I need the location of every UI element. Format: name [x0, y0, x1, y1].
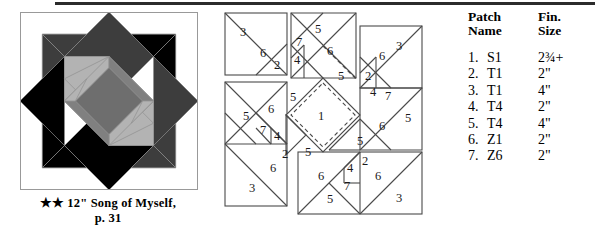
patch-fin-size: 2¾+ [538, 50, 594, 66]
column-header-fin-size: Fin. Size [538, 10, 594, 39]
patch-label: 6 [379, 119, 385, 133]
table-row: 4. T4 2" [468, 99, 594, 115]
patch-label: 2 [274, 58, 280, 72]
row-index: 5. [468, 116, 487, 132]
piecing-diagram-panel: 3 6 2 5 7 4 6 5 3 6 2 4 7 5 6 5 1 5 6 5 [208, 0, 440, 236]
quilt-block-illustration [20, 12, 198, 190]
patch-fin-size: 4" [538, 116, 594, 132]
patch-label: 6 [379, 49, 385, 63]
table-row: 2. T1 2" [468, 66, 594, 82]
patch-label: 4 [347, 161, 354, 175]
patch-fin-size: 2" [538, 132, 594, 148]
patch-label: 6 [375, 169, 381, 183]
table-row: 3. T1 4" [468, 83, 594, 99]
patch-label: 6 [327, 44, 333, 58]
patch-label: 3 [240, 25, 246, 39]
patch-label: 5 [327, 192, 333, 206]
patch-label: 7 [260, 123, 266, 137]
patch-label: 2 [282, 147, 288, 161]
quilt-block-panel: ★★ 12" Song of Myself, p. 31 [0, 6, 210, 236]
patch-label: 5 [357, 134, 363, 148]
table-row: 5. T4 4" [468, 116, 594, 132]
block-caption: ★★ 12" Song of Myself, p. 31 [8, 196, 208, 226]
patch-label: 6 [318, 169, 324, 183]
patch-label: 7 [385, 89, 391, 103]
row-index: 7. [468, 148, 487, 164]
patch-name: Z6 [487, 148, 538, 164]
patch-label: 3 [249, 181, 255, 195]
patch-name: T1 [487, 83, 538, 99]
patch-label: 5 [305, 145, 311, 159]
patch-label: 2 [362, 154, 368, 168]
table-row: 1. S1 2¾+ [468, 50, 594, 66]
row-index: 2. [468, 66, 487, 82]
patch-label: 4 [370, 85, 377, 99]
patch-name: T4 [487, 116, 538, 132]
patch-label: 7 [296, 35, 302, 49]
patch-label: 3 [396, 191, 402, 205]
table-row: 6. Z1 2" [468, 132, 594, 148]
difficulty-stars-icon: ★★ [40, 196, 64, 210]
patch-label: 5 [243, 109, 249, 123]
row-index: 1. [468, 50, 487, 66]
patch-label: 5 [315, 22, 321, 36]
patch-fin-size: 2" [538, 66, 594, 82]
block-title: 12" Song of Myself, [67, 196, 176, 210]
table-row: 7. Z6 2" [468, 148, 594, 164]
table-header-row: Patch Name Fin. Size [468, 10, 594, 39]
patch-label: 2 [365, 69, 371, 83]
patch-name: T1 [487, 66, 538, 82]
patch-label: 5 [405, 111, 411, 125]
patch-name: Z1 [487, 132, 538, 148]
patch-fin-size: 2" [538, 148, 594, 164]
patch-name: S1 [487, 50, 538, 66]
patch-fin-size: 2" [538, 99, 594, 115]
column-header-patch-name: Patch Name [468, 10, 538, 39]
patch-label: 3 [396, 39, 402, 53]
row-index: 4. [468, 99, 487, 115]
table-spacer-row [468, 39, 594, 50]
patch-label: 6 [268, 102, 274, 116]
patch-fin-size: 4" [538, 83, 594, 99]
patch-label: 5 [290, 90, 296, 104]
patch-name: T4 [487, 99, 538, 115]
patch-label: 1 [318, 109, 324, 123]
patch-label: 4 [274, 129, 281, 143]
block-page-reference: p. 31 [95, 211, 122, 225]
patch-size-table: Patch Name Fin. Size 1. S1 2¾+ 2. T1 2" [468, 10, 595, 165]
patch-label: 4 [294, 53, 301, 67]
patch-label: 5 [338, 69, 344, 83]
row-index: 6. [468, 132, 487, 148]
patch-label: 7 [344, 179, 350, 193]
row-index: 3. [468, 83, 487, 99]
patch-label: 6 [270, 161, 276, 175]
patch-label: 6 [260, 46, 266, 60]
